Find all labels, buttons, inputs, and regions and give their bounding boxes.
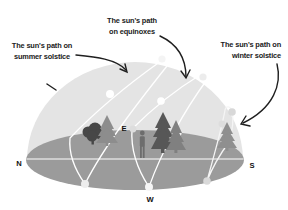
- summer-label-line1: The sun's path on: [12, 41, 73, 50]
- compass-east-label: E: [121, 124, 126, 133]
- equinox-label-line2: on equinoxes: [109, 27, 155, 36]
- compass-west-label: W: [146, 195, 154, 204]
- curved-arrow-winter: [243, 64, 278, 123]
- sun-dot-icon: [130, 126, 137, 133]
- summer-leader-tick: [47, 84, 56, 90]
- sky-dome-diagram: N E S W The sun's path on summer solstic…: [0, 0, 288, 210]
- winter-label-line1: The sun's path on: [221, 40, 282, 49]
- diagram-canvas: N E S W The sun's path on summer solstic…: [0, 0, 288, 210]
- sun-dot-icon: [157, 97, 165, 105]
- summer-label-line2: summer solstice: [14, 52, 70, 61]
- sun-dot-icon: [158, 55, 165, 62]
- compass-north-label: N: [16, 159, 21, 168]
- ground-disc: [26, 130, 244, 190]
- sun-dot-icon: [203, 177, 211, 185]
- sun-dot-icon: [145, 183, 153, 191]
- sun-dot-icon: [228, 108, 236, 116]
- equinox-label-line1: The sun's path: [107, 16, 157, 25]
- sun-dot-icon: [219, 121, 226, 128]
- sun-dot-icon: [199, 73, 206, 80]
- winter-label-line2: winter solstice: [231, 51, 281, 60]
- compass-south-label: S: [249, 161, 254, 170]
- sun-dot-icon: [106, 90, 114, 98]
- sun-dot-icon: [81, 180, 89, 188]
